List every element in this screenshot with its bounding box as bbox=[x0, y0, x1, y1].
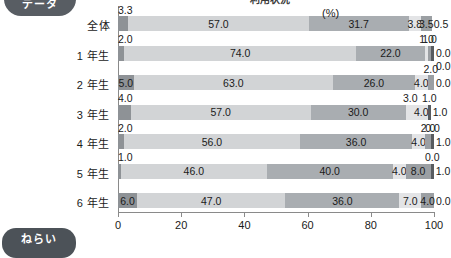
chart-title-text: 利用状況 bbox=[250, 0, 290, 5]
bar-segment: 8.0 bbox=[406, 164, 431, 179]
bar-segment: 4.0 bbox=[415, 75, 428, 90]
segment-value-label: 57.0 bbox=[208, 18, 228, 29]
bar-segment: 74.0 bbox=[124, 46, 356, 61]
bar-segment: 3.3 bbox=[118, 16, 128, 31]
bar-segment: 1.0 bbox=[428, 105, 431, 120]
stacked-bar: 6.047.036.07.04.00.0 bbox=[118, 193, 434, 208]
axis-tick bbox=[244, 212, 245, 217]
segment-value-label: 4.0 bbox=[414, 77, 429, 88]
axis-tick-label: 0 bbox=[115, 219, 121, 231]
segment-value-label: 8.0 bbox=[411, 166, 426, 177]
segment-value-label: 36.0 bbox=[332, 195, 352, 206]
segment-value-label: 30.0 bbox=[348, 107, 368, 118]
segment-value-label: 56.0 bbox=[202, 136, 222, 147]
bar-segment: 4.0 bbox=[412, 134, 425, 149]
bar-segment: 6.0 bbox=[118, 193, 137, 208]
segment-value-label: 0.0 bbox=[436, 77, 451, 88]
segment-value-label: 4.0 bbox=[392, 166, 407, 177]
bar-segment: 46.0 bbox=[121, 164, 266, 179]
stacked-bar: 4.057.030.03.04.01.01.0 bbox=[118, 105, 434, 120]
segment-value-label: 40.0 bbox=[319, 166, 339, 177]
bar-segment: 5.0 bbox=[118, 75, 134, 90]
chart-row: 1 年生2.074.022.01.01.00.00.0 bbox=[0, 36, 439, 66]
chart-row: 4 年生2.056.036.04.02.00.01.0 bbox=[0, 124, 439, 154]
segment-value-label: 22.0 bbox=[380, 48, 400, 59]
bar-segment: 26.0 bbox=[333, 75, 415, 90]
segment-value-label: 0.0 bbox=[436, 195, 451, 206]
segment-value-label: 1.0 bbox=[436, 166, 451, 177]
bar-segment: 56.0 bbox=[124, 134, 299, 149]
segment-value-label: 1.0 bbox=[422, 93, 437, 104]
axis-tick bbox=[118, 212, 119, 217]
bar-segment: 3.5 bbox=[421, 16, 432, 31]
row-label: 6 年生 bbox=[0, 194, 110, 210]
chart-row: 6 年生6.047.036.07.04.00.0 bbox=[0, 183, 439, 213]
row-label: 1 年生 bbox=[0, 47, 110, 63]
bar-segment: 63.0 bbox=[134, 75, 333, 90]
bar-segment: 30.0 bbox=[311, 105, 406, 120]
axis-tick-label: 60 bbox=[301, 219, 313, 231]
segment-value-label: 63.0 bbox=[223, 77, 243, 88]
bar-segment: 4.0 bbox=[393, 164, 406, 179]
segment-value-label: 0.0 bbox=[425, 152, 440, 163]
stacked-bar: 2.074.022.01.01.00.00.0 bbox=[118, 46, 434, 61]
segment-value-label: 2.0 bbox=[118, 123, 133, 134]
segment-value-label: 4.0 bbox=[414, 107, 429, 118]
bar-segment: 0.0 bbox=[431, 46, 434, 61]
bar-segment: 36.0 bbox=[300, 134, 413, 149]
bar-segment: 4.0 bbox=[421, 193, 434, 208]
segment-value-label: 0.5 bbox=[434, 18, 449, 29]
segment-value-label: 4.0 bbox=[411, 136, 426, 147]
segment-value-label: 26.0 bbox=[364, 77, 384, 88]
segment-value-label: 57.0 bbox=[210, 107, 230, 118]
chart-row: 3 年生4.057.030.03.04.01.01.0 bbox=[0, 95, 439, 125]
row-label: 全体 bbox=[0, 17, 110, 33]
chart-row: 5 年生1.046.040.04.08.00.01.0 bbox=[0, 154, 439, 184]
segment-value-label: 47.0 bbox=[201, 195, 221, 206]
chart-row: 全体3.357.031.73.83.50.5 bbox=[0, 6, 439, 36]
axis-tick bbox=[181, 212, 182, 217]
segment-value-label: 0.0 bbox=[425, 123, 440, 134]
segment-value-label: 5.0 bbox=[119, 77, 134, 88]
segment-value-label: 1.0 bbox=[433, 107, 448, 118]
bar-segment: 0.0 bbox=[431, 134, 434, 149]
bar-segment: 7.0 bbox=[399, 193, 421, 208]
axis-tick bbox=[371, 212, 372, 217]
axis-tick-label: 80 bbox=[365, 219, 377, 231]
segment-value-label: 3.3 bbox=[118, 5, 133, 16]
segment-value-label: 46.0 bbox=[184, 166, 204, 177]
row-label: 2 年生 bbox=[0, 76, 110, 92]
bar-segment: 22.0 bbox=[356, 46, 425, 61]
segment-value-label: 6.0 bbox=[120, 195, 135, 206]
bar-segment: 4.0 bbox=[415, 105, 428, 120]
bar-segment: 47.0 bbox=[137, 193, 286, 208]
segment-value-label: 2.0 bbox=[118, 34, 133, 45]
stacked-bar: 2.056.036.04.02.00.01.0 bbox=[118, 134, 434, 149]
axis-tick-label: 100 bbox=[425, 219, 443, 231]
bar-segment: 57.0 bbox=[128, 16, 308, 31]
segment-value-label: 31.7 bbox=[348, 18, 368, 29]
segment-value-label: 4.0 bbox=[118, 93, 133, 104]
bar-segment: 36.0 bbox=[285, 193, 399, 208]
row-label: 4 年生 bbox=[0, 135, 110, 151]
stacked-bar: 3.357.031.73.83.50.5 bbox=[118, 16, 434, 31]
segment-value-label: 1.0 bbox=[436, 136, 451, 147]
axis-tick-label: 20 bbox=[175, 219, 187, 231]
chart-row: 2 年生5.063.026.04.02.00.0 bbox=[0, 65, 439, 95]
aim-badge-label: ねらい bbox=[21, 233, 57, 245]
stacked-bar: 5.063.026.04.02.00.0 bbox=[118, 75, 434, 90]
segment-value-label: 0.0 bbox=[436, 48, 451, 59]
segment-value-label: 36.0 bbox=[346, 136, 366, 147]
aim-badge: ねらい bbox=[2, 228, 76, 258]
row-label: 3 年生 bbox=[0, 106, 110, 122]
bar-segment: 4.0 bbox=[118, 105, 131, 120]
bar-segment: 0.0 bbox=[431, 164, 434, 179]
bar-segment: 2.0 bbox=[428, 75, 434, 90]
segment-value-label: 74.0 bbox=[230, 48, 250, 59]
segment-value-label: 4.0 bbox=[420, 195, 435, 206]
segment-value-label: 1.0 bbox=[118, 152, 133, 163]
axis-tick bbox=[308, 212, 309, 217]
segment-value-label: 3.0 bbox=[403, 93, 418, 104]
segment-value-label: 7.0 bbox=[403, 195, 418, 206]
